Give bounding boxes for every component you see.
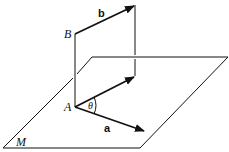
geometry-diagram [0, 0, 229, 152]
angle-arc [94, 97, 96, 114]
label-B: B [64, 28, 71, 40]
label-theta: θ [88, 101, 93, 111]
label-A: A [64, 101, 71, 113]
label-a: a [104, 123, 110, 134]
label-b: b [98, 8, 105, 19]
plane-M [3, 57, 228, 148]
label-M: M [16, 136, 26, 148]
vector-b-projection [75, 77, 134, 107]
